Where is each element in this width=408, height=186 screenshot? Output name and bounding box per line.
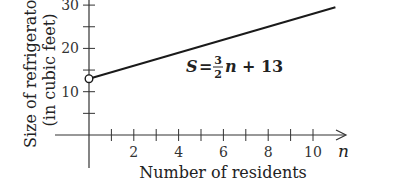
equation-lhs: S xyxy=(186,57,198,76)
x-tick-label: 2 xyxy=(129,144,138,160)
tick-labels: 246810102030 xyxy=(61,0,322,160)
open-endpoint xyxy=(85,75,93,83)
x-axis-label: Number of residents xyxy=(139,163,307,182)
axes xyxy=(55,0,346,168)
y-tick-label: 30 xyxy=(61,0,79,13)
x-variable-label: n xyxy=(338,141,349,161)
y-tick-label: 10 xyxy=(61,84,79,100)
x-tick-label: 4 xyxy=(174,144,183,160)
equation-numerator: 3 xyxy=(214,54,222,67)
x-tick-label: 10 xyxy=(304,144,322,160)
equation-equals: = xyxy=(199,57,212,76)
x-tick-label: 8 xyxy=(264,144,273,160)
x-tick-label: 6 xyxy=(219,144,228,160)
equation-variable: n xyxy=(225,57,237,76)
y-axis-label-line2: (in cubic feet) xyxy=(40,14,59,127)
y-axis-label-line1: Size of refrigerator xyxy=(21,0,40,148)
y-tick-label: 20 xyxy=(61,40,79,56)
equation-denominator: 2 xyxy=(214,68,222,81)
equation-rest: + 13 xyxy=(242,57,283,76)
chart: 246810102030 n Number of residents Size … xyxy=(0,0,408,186)
equation-annotation: S = 3 2 n + 13 xyxy=(186,54,283,81)
